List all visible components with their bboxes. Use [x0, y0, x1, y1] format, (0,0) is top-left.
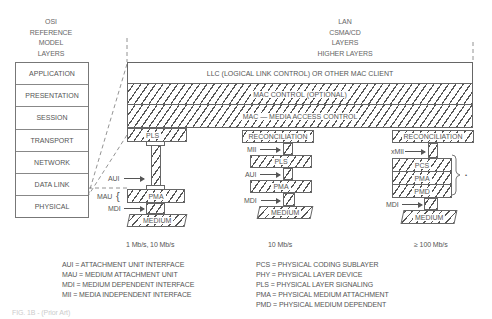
mdi-arrow-icon	[261, 200, 280, 201]
llc-layer: LLC (LOGICAL LINK CONTROL) OR OTHER MAC …	[127, 62, 473, 84]
stack2-pma: PMA	[250, 180, 312, 193]
stack3-medium: MEDIUM	[401, 210, 458, 224]
stack3-mdi-connector	[424, 198, 438, 210]
mdi-label: MDI	[244, 197, 257, 204]
stack1-aui-cable	[151, 145, 161, 189]
legend-item: PMD = PHYSICAL MEDIUM DEPENDENT	[256, 300, 389, 310]
stack2-pls-label: PLS	[272, 158, 289, 165]
legend-item: MAU = MEDIUM ATTACHMENT UNIT	[62, 270, 194, 280]
xmii-arrow-icon	[405, 151, 425, 152]
stack3-speed: ≥ 100 Mb/s	[414, 241, 448, 248]
stack2-medium-label: MEDIUM	[269, 209, 301, 216]
legend-item: MDI = MEDIUM DEPENDENT INTERFACE	[62, 280, 194, 290]
stack3-medium-label: MEDIUM	[413, 214, 445, 221]
stack1-pls: PLS	[127, 128, 187, 142]
stack3-pma-label: PMA	[412, 175, 431, 182]
stack3-pcs-label: PCS	[413, 162, 431, 169]
aui-label: AUI	[108, 175, 119, 182]
mdi-label: MDI	[386, 201, 399, 208]
mau-label: MAU	[97, 193, 112, 200]
mdi-arrow-icon	[124, 208, 144, 209]
stack1-pma: PMA	[127, 189, 185, 203]
stack1-pma-label: PMA	[146, 193, 165, 200]
mii-arrow-icon	[260, 149, 280, 150]
stack1-medium: MEDIUM	[127, 214, 188, 227]
stack2-mdi-connector	[283, 193, 295, 206]
stack2-mii-cable	[283, 143, 293, 155]
stack3-pcs: PCS	[392, 158, 452, 172]
mau-brace-icon: {	[116, 191, 120, 202]
mac-layer: MAC — MEDIA ACCESS CONTROL	[127, 104, 473, 128]
legend-item: AUI = ATTACHMENT UNIT INTERFACE	[62, 260, 194, 270]
aui-label: AUI	[245, 171, 256, 178]
stack2-reconciliation: RECONCILIATION	[242, 130, 314, 143]
mac-control-layer: MAC CONTROL (OPTIONAL)	[127, 83, 473, 105]
legend-item: PHY = PHYSICAL LAYER DEVICE	[256, 270, 389, 280]
figure-caption: FIG. 1B - (Prior Art)	[12, 309, 70, 316]
aui-arrow-icon	[124, 178, 144, 179]
mac-label: MAC — MEDIA ACCESS CONTROL	[241, 113, 360, 120]
stack2-medium: MEDIUM	[257, 206, 314, 219]
stack2-pma-label: PMA	[271, 183, 290, 190]
stack3-reconciliation-label: RECONCILIATION	[402, 133, 465, 140]
stack2-speed: 10 Mb/s	[268, 241, 292, 248]
mdi-label: MDI	[108, 205, 121, 212]
legend-item: PMA = PHYSICAL MEDIUM ATTACHMENT	[256, 290, 389, 300]
stack1-mdi-connector	[146, 203, 165, 214]
legend-right: PCS = PHYSICAL CODING SUBLAYER PHY = PHY…	[256, 260, 389, 310]
aui-arrow-icon	[260, 174, 280, 175]
mii-label: MII	[247, 146, 256, 153]
legend-item: MII = MEDIA INDEPENDENT INTERFACE	[62, 290, 194, 300]
xmii-label: xMII	[391, 148, 404, 155]
mac-control-label: MAC CONTROL (OPTIONAL)	[251, 91, 348, 98]
stack3-pmd: PMD	[392, 184, 452, 198]
stack1-speed: 1 Mb/s, 10 Mb/s	[126, 241, 174, 248]
stack1-medium-label: MEDIUM	[141, 217, 173, 224]
legend-left: AUI = ATTACHMENT UNIT INTERFACE MAU = ME…	[62, 260, 194, 300]
stack3-xmii-cable	[428, 143, 438, 158]
legend-item: PLS = PHYSICAL LAYER SIGNALING	[256, 280, 389, 290]
stack3-pmd-label: PMD	[412, 188, 432, 195]
stack3-pma: PMA	[392, 171, 452, 185]
stack2-aui-cable	[283, 168, 293, 180]
mdi-arrow-icon	[402, 204, 422, 205]
stack1-pls-label: PLS	[144, 132, 161, 139]
llc-label: LLC (LOGICAL LINK CONTROL) OR OTHER MAC …	[207, 70, 393, 77]
stack2-pls: PLS	[250, 155, 312, 168]
stack2-reconciliation-label: RECONCILIATION	[247, 133, 310, 140]
svg-text:•: •	[465, 172, 467, 178]
stack3-reconciliation: RECONCILIATION	[392, 130, 474, 143]
legend-item: PCS = PHYSICAL CODING SUBLAYER	[256, 260, 389, 270]
